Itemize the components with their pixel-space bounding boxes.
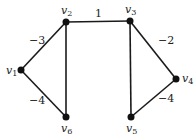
edge-v3-v4: [130, 21, 176, 79]
label-v2: v2: [61, 4, 72, 18]
weight-v2-v3: 1: [95, 7, 102, 20]
label-v1: v1: [6, 64, 17, 78]
label-v3: v3: [125, 3, 136, 17]
edge-v2-v3: [66, 21, 130, 22]
weight-v3-v4: −2: [158, 34, 174, 47]
node-v4: [173, 76, 180, 83]
weighted-graph-diagram: −3 −4 1 −2 −4 v1 v2 v3 v4 v5 v6: [0, 0, 196, 140]
node-v6: [63, 114, 70, 121]
node-v1: [18, 67, 25, 74]
node-v2: [63, 19, 70, 26]
label-v4: v4: [182, 72, 193, 86]
weight-v1-v6: −4: [29, 94, 45, 107]
node-v5: [128, 114, 135, 121]
label-v6: v6: [61, 122, 72, 136]
weight-v4-v5: −4: [158, 92, 174, 105]
edge-v3-v5: [130, 21, 131, 117]
node-v3: [127, 18, 134, 25]
graph-svg: −3 −4 1 −2 −4 v1 v2 v3 v4 v5 v6: [0, 0, 196, 140]
weight-v1-v2: −3: [29, 34, 45, 47]
label-v5: v5: [126, 122, 137, 136]
